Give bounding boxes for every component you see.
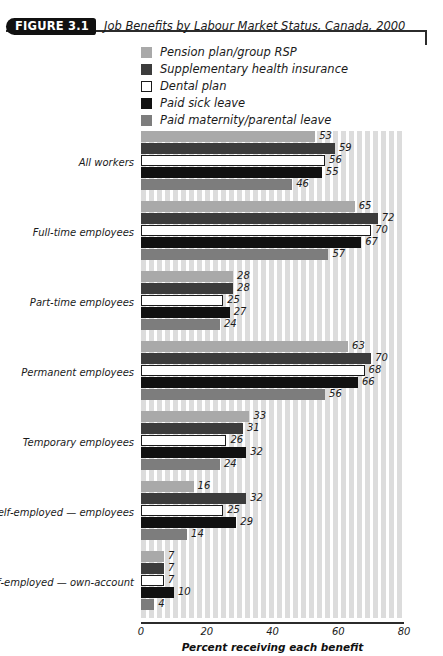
bar <box>141 131 315 142</box>
bar-row: 59 <box>141 143 441 154</box>
bar <box>141 411 249 422</box>
bar-row: 66 <box>141 377 441 388</box>
bar-row: 27 <box>141 307 441 318</box>
legend-item: Dental plan <box>141 78 401 94</box>
bar-row: 70 <box>141 353 441 364</box>
x-axis-tick-label: 40 <box>266 626 279 637</box>
bar-row: 29 <box>141 517 441 528</box>
bar-value-label: 53 <box>319 130 332 142</box>
bar-value-label: 57 <box>332 248 345 260</box>
bar <box>141 447 246 458</box>
bar <box>141 271 233 282</box>
bar-row: 25 <box>141 505 441 516</box>
category-label: Self-employed — employees <box>0 481 134 543</box>
bar-value-label: 67 <box>365 236 378 248</box>
bar <box>141 143 335 154</box>
bar <box>141 529 187 540</box>
bar <box>141 551 164 562</box>
bar <box>141 307 230 318</box>
category-label: All workers <box>0 131 134 193</box>
bar-row: 26 <box>141 435 441 446</box>
legend-swatch-icon <box>141 64 152 75</box>
bars-container: 2828252724 <box>141 271 441 333</box>
bar-value-label: 14 <box>191 528 204 540</box>
bar-value-label: 4 <box>158 598 164 610</box>
legend-label: Pension plan/group RSP <box>160 45 297 59</box>
bars-container: 6572706757 <box>141 201 441 263</box>
bar-group: Temporary employees3331263224 <box>0 411 443 473</box>
bar-value-label: 7 <box>168 550 174 562</box>
bar <box>141 423 243 434</box>
bars-container: 6370686656 <box>141 341 441 403</box>
bar-value-label: 28 <box>237 282 250 294</box>
bar <box>141 377 358 388</box>
bars-container: 777104 <box>141 551 441 613</box>
bar-row: 68 <box>141 365 441 376</box>
bar-group: All workers5359565546 <box>0 131 443 193</box>
x-axis-tick-label: 60 <box>332 626 345 637</box>
bar <box>141 389 325 400</box>
legend-swatch-icon <box>141 115 152 126</box>
bar <box>141 213 378 224</box>
x-axis-ticks: 020406080 <box>0 626 443 640</box>
bar-row: 65 <box>141 201 441 212</box>
bar <box>141 295 223 306</box>
bar-value-label: 66 <box>362 376 375 388</box>
bar-value-label: 70 <box>375 224 388 236</box>
bar-value-label: 33 <box>253 410 266 422</box>
bar-value-label: 72 <box>382 212 395 224</box>
bar-row: 4 <box>141 599 441 610</box>
bar-value-label: 68 <box>369 364 382 376</box>
bar-value-label: 63 <box>352 340 365 352</box>
bar-value-label: 65 <box>359 200 372 212</box>
bar-row: 25 <box>141 295 441 306</box>
bar <box>141 249 328 260</box>
bar-value-label: 25 <box>227 294 240 306</box>
bar-row: 32 <box>141 447 441 458</box>
x-axis-tick-label: 0 <box>138 626 144 637</box>
bar <box>141 283 233 294</box>
bar-group: Permanent employees6370686656 <box>0 341 443 403</box>
bar-row: 7 <box>141 551 441 562</box>
bar <box>141 225 371 236</box>
bar-value-label: 27 <box>234 306 247 318</box>
bar-value-label: 70 <box>375 352 388 364</box>
legend-label: Dental plan <box>160 79 226 93</box>
bar-group: Full-time employees6572706757 <box>0 201 443 263</box>
bar <box>141 587 174 598</box>
bar-value-label: 32 <box>250 492 263 504</box>
x-axis-title: Percent receiving each benefit <box>141 641 404 653</box>
category-label: Part-time employees <box>0 271 134 333</box>
bar-row: 14 <box>141 529 441 540</box>
bar <box>141 459 220 470</box>
bar-row: 7 <box>141 575 441 586</box>
figure-header: FIGURE 3.1 Job Benefits by Labour Market… <box>0 9 443 33</box>
x-axis-tick-label: 80 <box>398 626 411 637</box>
bar-row: 28 <box>141 283 441 294</box>
bar-groups-layer: All workers5359565546Full-time employees… <box>0 131 443 621</box>
bar-value-label: 55 <box>326 166 339 178</box>
x-axis-tick-label: 20 <box>200 626 213 637</box>
legend-swatch-icon <box>141 81 152 92</box>
bar-value-label: 46 <box>296 178 309 190</box>
bar-group: Self-employed — employees1632252914 <box>0 481 443 543</box>
legend-item: Paid maternity/parental leave <box>141 112 401 128</box>
bars-container: 3331263224 <box>141 411 441 473</box>
bar-row: 63 <box>141 341 441 352</box>
bar-row: 53 <box>141 131 441 142</box>
bar <box>141 365 365 376</box>
bar-value-label: 31 <box>247 422 260 434</box>
bar-value-label: 10 <box>178 586 191 598</box>
bar-group: Self-employed — own-account777104 <box>0 551 443 613</box>
bar-row: 31 <box>141 423 441 434</box>
bar-value-label: 59 <box>339 142 352 154</box>
bar <box>141 563 164 574</box>
legend-item: Supplementary health insurance <box>141 61 401 77</box>
bar <box>141 237 361 248</box>
bar-value-label: 56 <box>329 388 342 400</box>
legend-label: Paid maternity/parental leave <box>160 113 331 127</box>
bar-value-label: 32 <box>250 446 263 458</box>
legend-label: Supplementary health insurance <box>160 62 348 76</box>
bar <box>141 517 236 528</box>
category-label: Self-employed — own-account <box>0 551 134 613</box>
